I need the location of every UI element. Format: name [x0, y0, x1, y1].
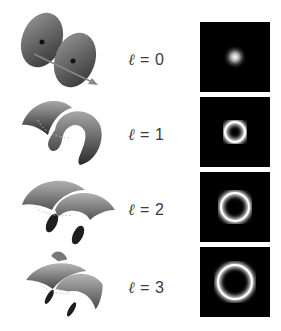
donut-ring-icon	[200, 97, 270, 167]
ell-label: ℓ = 0	[128, 50, 164, 69]
equals-sign: =	[135, 279, 155, 296]
intensity-profile-gaussian	[200, 22, 270, 92]
intensity-profile-ring-2	[200, 172, 270, 242]
equals-sign: =	[135, 201, 155, 218]
ell-value: 2	[155, 201, 164, 218]
row-ell-2: ℓ = 2	[0, 165, 281, 240]
ell-value: 0	[155, 51, 164, 68]
intensity-profile-ring-3	[200, 247, 270, 317]
ell-value: 3	[155, 279, 164, 296]
ell-label: ℓ = 3	[128, 278, 164, 297]
single-helix-wavefront-icon	[0, 90, 120, 170]
donut-ring-icon	[200, 247, 270, 317]
equals-sign: =	[135, 51, 155, 68]
row-ell-1: ℓ = 1	[0, 90, 281, 165]
ell-value: 1	[155, 126, 164, 143]
equals-sign: =	[135, 126, 155, 143]
row-ell-0: ℓ = 0	[0, 12, 281, 87]
ell-label: ℓ = 2	[128, 200, 164, 219]
ell-label: ℓ = 1	[128, 125, 164, 144]
double-helix-wavefront-icon	[0, 165, 120, 245]
planar-wavefront-icon	[0, 12, 120, 92]
donut-ring-icon	[200, 172, 270, 242]
intensity-profile-ring-1	[200, 97, 270, 167]
row-ell-3: ℓ = 3	[0, 240, 281, 315]
gaussian-spot-icon	[200, 22, 270, 92]
triple-helix-wavefront-icon	[0, 240, 120, 320]
